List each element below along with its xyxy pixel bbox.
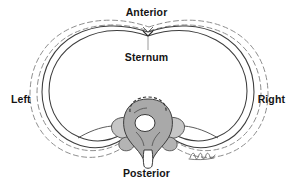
label-left: Left <box>11 94 31 105</box>
anatomy-figure: Anterior Sternum Posterior Left Right <box>0 0 293 187</box>
label-sternum: Sternum <box>125 52 168 63</box>
label-right: Right <box>258 94 285 105</box>
rib-cage-diagram <box>0 0 293 187</box>
artist-signature <box>189 153 215 159</box>
thoracic-vertebra <box>78 97 218 168</box>
label-anterior: Anterior <box>126 7 168 18</box>
vertebra-spinous-process <box>143 150 153 168</box>
vertebral-canal <box>135 115 155 132</box>
label-posterior: Posterior <box>123 168 170 179</box>
